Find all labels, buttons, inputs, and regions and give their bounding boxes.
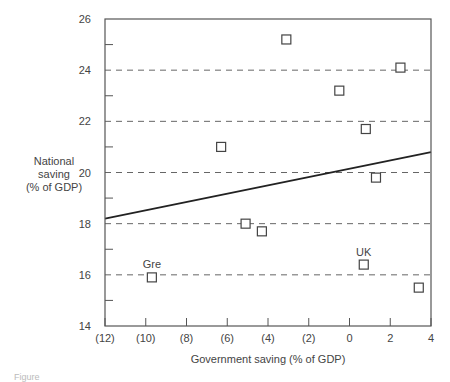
- data-point-marker: [217, 142, 226, 151]
- y-tick-label: 22: [79, 115, 91, 127]
- data-point-marker: [282, 35, 291, 44]
- y-axis-title: National saving (% of GDP): [14, 155, 94, 194]
- x-tick-label: (6): [221, 332, 234, 344]
- x-tick-label: (4): [261, 332, 274, 344]
- x-axis-title: Government saving (% of GDP): [191, 353, 346, 365]
- y-tick-label: 14: [79, 320, 91, 332]
- y-tick-label: 16: [79, 269, 91, 281]
- y-tick-label: 26: [79, 13, 91, 25]
- x-tick-label: (10): [136, 332, 156, 344]
- y-tick-label: 24: [79, 64, 91, 76]
- data-point-marker: [257, 227, 266, 236]
- data-point-marker: [371, 173, 380, 182]
- x-tick-label: 4: [428, 332, 434, 344]
- gridlines: [105, 70, 431, 275]
- data-point-marker: [241, 219, 250, 228]
- data-point-label: UK: [356, 246, 372, 258]
- x-tick-label: 0: [346, 332, 352, 344]
- data-point-marker: [361, 125, 370, 134]
- trend-line: [105, 152, 431, 219]
- y-axis-title-line-3: (% of GDP): [14, 181, 94, 194]
- x-tick-label: (8): [180, 332, 193, 344]
- x-tick-label: (2): [302, 332, 315, 344]
- regression-line: [105, 152, 431, 219]
- x-tick-label: (12): [95, 332, 115, 344]
- data-point-marker: [147, 273, 156, 282]
- data-point-marker: [335, 86, 344, 95]
- data-points: GreUK: [143, 35, 424, 292]
- x-tick-label: 2: [387, 332, 393, 344]
- data-point-marker: [359, 260, 368, 269]
- data-point-marker: [396, 63, 405, 72]
- y-axis-title-line-2: saving: [14, 168, 94, 181]
- y-tick-label: 18: [79, 218, 91, 230]
- figure-caption: Figure: [14, 372, 40, 382]
- data-point-label: Gre: [143, 258, 161, 270]
- y-axis-title-line-1: National: [14, 155, 94, 168]
- data-point-marker: [414, 283, 423, 292]
